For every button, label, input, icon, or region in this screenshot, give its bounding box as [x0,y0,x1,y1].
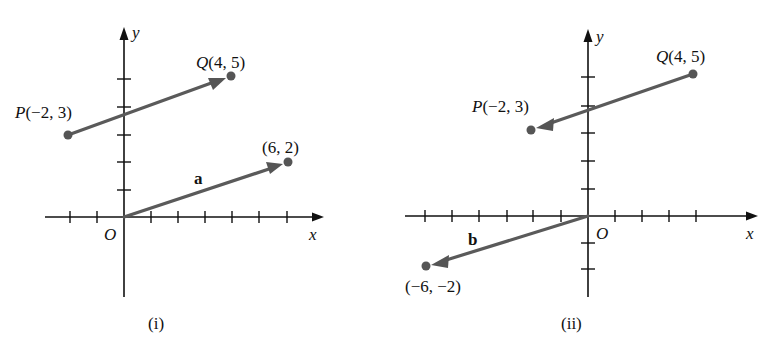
panel-ii: y x O P(−2, 3) Q(4, 5) (−6, −2) b (ii) [405,27,758,333]
y-axis-arrow-icon [584,29,593,42]
origin-label-ii: O [596,224,608,243]
origin-label-i: O [104,225,116,244]
y-axis-label-i: y [130,23,140,42]
vector-b [443,216,588,261]
point-neg6-neg2 [422,262,431,271]
arrowhead-icon [266,162,283,174]
point-p-ii [527,126,536,135]
point-p-i [64,131,73,140]
y-axis-label-ii: y [594,27,604,46]
vector-qp-ii [548,74,693,124]
x-axis-label-ii: x [745,224,754,243]
caption-ii: (ii) [561,314,582,333]
vector-a-label: a [194,169,203,188]
arrowhead-icon [208,78,226,90]
y-axis-arrow-icon [120,27,129,40]
point-p-label-i: P(−2, 3) [14,103,72,122]
point-6-2-label: (6, 2) [262,138,299,157]
arrowhead-icon [536,118,554,131]
vector-b-label: b [468,230,477,249]
vector-pq-i [68,82,214,135]
x-axis-arrow-icon [746,212,758,221]
x-axis-arrow-icon [312,213,324,222]
panel-i: y x O P(−2, 3) Q(4, 5) (6, 2) a (i) [14,23,324,333]
x-axis-label-i: x [308,225,317,244]
vector-diagram: y x O P(−2, 3) Q(4, 5) (6, 2) a (i) [0,0,769,358]
point-p-label-ii: P(−2, 3) [471,97,529,116]
point-q-i [227,72,236,81]
point-neg6-neg2-label: (−6, −2) [405,277,461,296]
point-q-label-ii: Q(4, 5) [656,47,705,66]
caption-i: (i) [148,314,164,333]
arrowhead-icon [431,255,449,268]
point-6-2 [284,158,293,167]
point-q-label-i: Q(4, 5) [196,53,245,72]
point-q-ii [689,70,698,79]
